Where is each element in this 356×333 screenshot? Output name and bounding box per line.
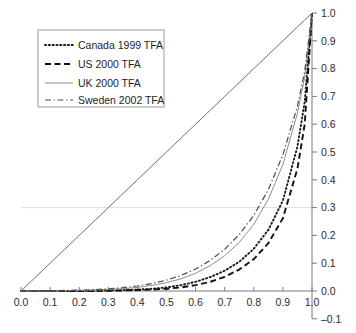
x-tick-label-0.9: 0.9 — [276, 296, 291, 308]
y-tick-label--0.1: –0.1 — [321, 313, 342, 325]
x-tick-label-0.2: 0.2 — [72, 296, 87, 308]
legend-label-uk-2000-tfa: UK 2000 TFA — [78, 77, 141, 89]
legend-label-sweden-2002-tfa: Sweden 2002 TFA — [78, 94, 164, 106]
y-tick-label-0.3: 0.3 — [321, 201, 336, 213]
y-tick-label-0.7: 0.7 — [321, 90, 336, 102]
legend-label-us-2000-tfa: US 2000 TFA — [78, 58, 141, 70]
legend-label-canada-1999-tfa: Canada 1999 TFA — [78, 39, 163, 51]
chart-legend: Canada 1999 TFAUS 2000 TFAUK 2000 TFASwe… — [38, 30, 164, 107]
y-axis-ticks — [312, 13, 317, 319]
y-tick-label-0.9: 0.9 — [321, 35, 336, 47]
y-axis-tick-labels: –0.10.00.10.20.30.40.50.60.70.80.91.0 — [321, 7, 342, 325]
y-tick-label-0.8: 0.8 — [321, 62, 336, 74]
x-tick-label-1.0: 1.0 — [305, 296, 320, 308]
x-tick-label-0.6: 0.6 — [188, 296, 203, 308]
y-tick-label-0.6: 0.6 — [321, 118, 336, 130]
x-axis-tick-labels: 0.00.10.20.30.40.50.60.70.80.91.0 — [14, 296, 320, 308]
y-tick-label-0.1: 0.1 — [321, 257, 336, 269]
x-tick-label-0.3: 0.3 — [101, 296, 116, 308]
y-tick-label-0.4: 0.4 — [321, 174, 336, 186]
y-tick-label-1.0: 1.0 — [321, 7, 336, 19]
x-tick-label-0.5: 0.5 — [159, 296, 174, 308]
x-tick-label-0.1: 0.1 — [43, 296, 58, 308]
y-tick-label-0.5: 0.5 — [321, 146, 336, 158]
y-tick-label-0.0: 0.0 — [321, 285, 336, 297]
x-tick-label-0.8: 0.8 — [246, 296, 261, 308]
y-tick-label-0.2: 0.2 — [321, 229, 336, 241]
x-tick-label-0.4: 0.4 — [130, 296, 145, 308]
lorenz-curve-chart: 0.00.10.20.30.40.50.60.70.80.91.0 –0.10.… — [0, 0, 356, 333]
x-tick-label-0.7: 0.7 — [217, 296, 232, 308]
chart-container: 0.00.10.20.30.40.50.60.70.80.91.0 –0.10.… — [0, 0, 356, 333]
x-tick-label-0.0: 0.0 — [14, 296, 29, 308]
